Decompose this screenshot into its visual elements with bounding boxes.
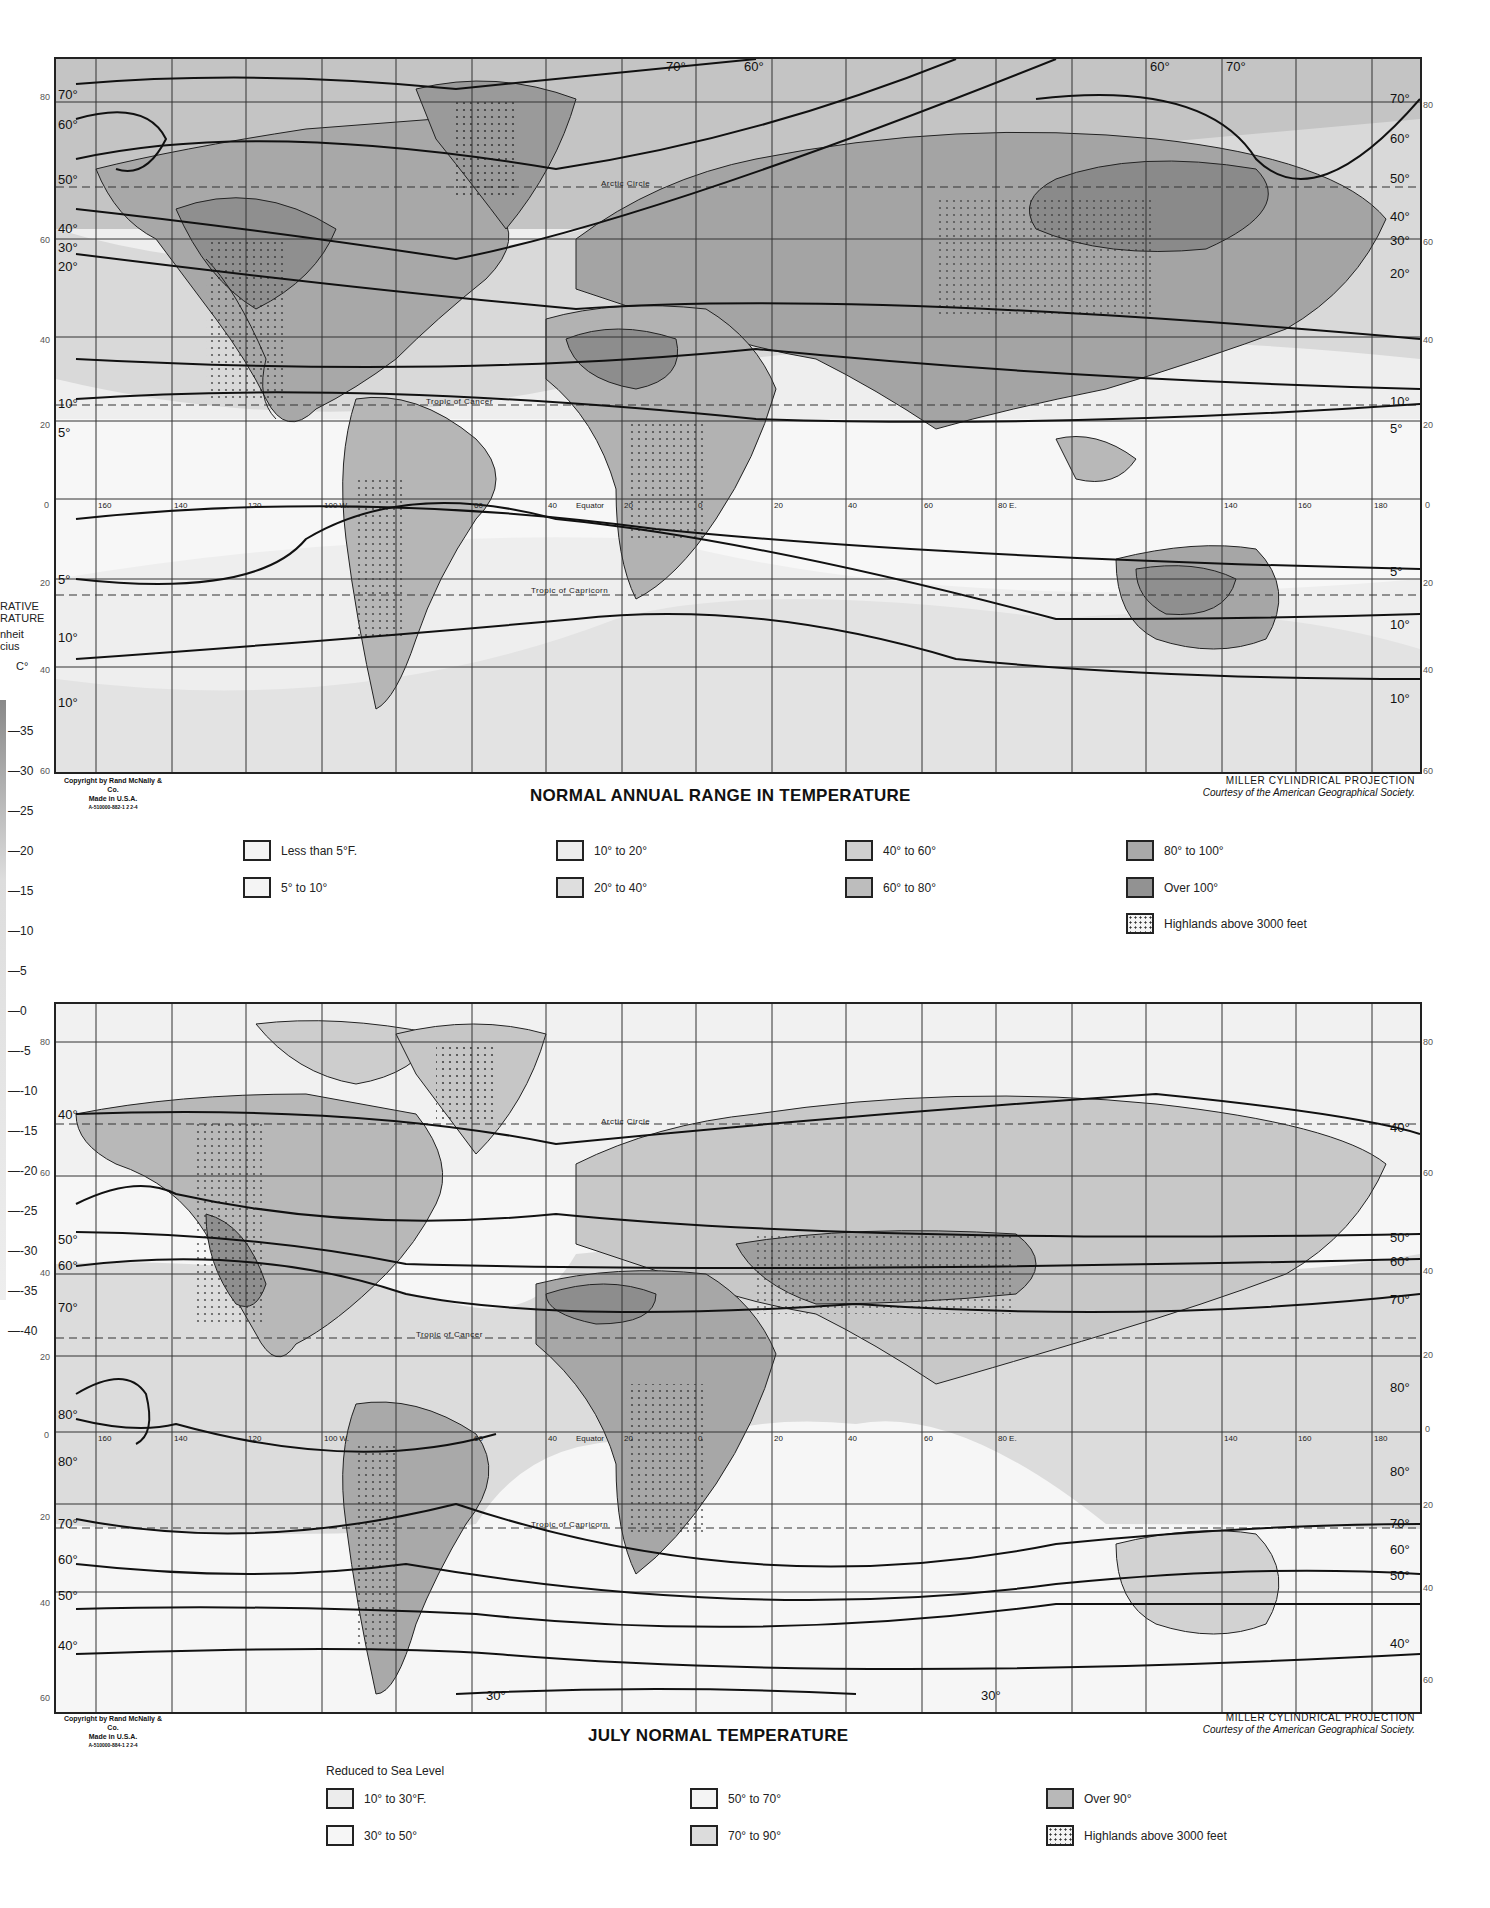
isotherm-label: 60° [1150,59,1170,74]
copyright-line: Made in U.S.A. [58,794,168,803]
legend-label: 20° to 40° [594,881,647,895]
lat-label: 80 [1423,1037,1433,1047]
legend-label: 40° to 60° [883,844,936,858]
lon-label: 140 [174,501,187,510]
isotherm-label: 60° [744,59,764,74]
scale-tick: —5 [8,964,27,978]
isotherm-label: 70° [58,1516,78,1531]
lon-label: 40 [848,1434,857,1443]
lat-label: 60 [40,1693,50,1703]
projection-name: MILLER CYLINDRICAL PROJECTION [1150,1712,1415,1724]
isotherm-label: 60° [58,117,78,132]
lon-label: 80 E. [998,1434,1017,1443]
lat-label: 80 [1423,100,1433,110]
lat-label: 0 [44,1430,49,1440]
lon-label: 60 [474,1434,483,1443]
legend-swatch [556,840,584,861]
isotherm-label: 80° [1390,1380,1410,1395]
lat-label: 40 [40,335,50,345]
legend-item: 70° to 90° [690,1825,781,1846]
isotherm-label: 70° [666,59,686,74]
july-map-frame: Arctic Circle Tropic of Cancer Tropic of… [54,1002,1422,1714]
copyright-line: Copyright by Rand McNally & Co. [58,776,168,794]
isotherm-label: 30° [58,240,78,255]
lon-label: 60 [924,501,933,510]
isotherm-label: 40° [1390,1636,1410,1651]
isotherm-label: 30° [1390,233,1410,248]
lon-label: 180 [1374,1434,1387,1443]
legend-swatch [243,877,271,898]
legend-label: Less than 5°F. [281,844,357,858]
isotherm-label: 10° [58,396,78,411]
isotherm-label: 5° [1390,421,1402,436]
lat-label: 20 [1423,1350,1433,1360]
scale-tick: —10 [8,924,33,938]
legend-label: 5° to 10° [281,881,327,895]
legend-item: Highlands above 3000 feet [1126,913,1307,934]
isotherm-label: 70° [58,87,78,102]
lon-label: 20 [624,1434,633,1443]
isotherm-label: 10° [1390,691,1410,706]
tropic-of-cancer-label: Tropic of Cancer [416,1330,483,1339]
isotherm-label: 5° [58,425,70,440]
projection-note: MILLER CYLINDRICAL PROJECTION Courtesy o… [1150,1712,1415,1736]
scale-tick: —30 [8,764,33,778]
legend-label: 10° to 30°F. [364,1792,426,1806]
scale-tick: —15 [8,884,33,898]
map-title: JULY NORMAL TEMPERATURE [588,1726,848,1746]
legend-swatch [326,1788,354,1809]
legend-label: 80° to 100° [1164,844,1224,858]
lon-label: 20 [774,1434,783,1443]
legend-label: Over 100° [1164,881,1218,895]
lat-label: 40 [40,1268,50,1278]
legend-label: Over 90° [1084,1792,1131,1806]
lon-label: 140 [1224,1434,1237,1443]
isotherm-label: 70° [58,1300,78,1315]
scale-tick: —20 [8,844,33,858]
legend-swatch [556,877,584,898]
isotherm-label: 60° [58,1552,78,1567]
isotherm-label: 80° [1390,1464,1410,1479]
isotherm-label: 20° [1390,266,1410,281]
isotherm-label: 60° [1390,1254,1410,1269]
equator-label: Equator [576,501,604,510]
legend-swatch [326,1825,354,1846]
legend-item: Less than 5°F. [243,840,357,861]
scale-tick: —-10 [8,1084,37,1098]
lon-label: 80 E. [998,501,1017,510]
lat-label: 20 [40,1512,50,1522]
isotherm-label: 10° [1390,617,1410,632]
isotherm-label: 50° [58,172,78,187]
arctic-circle-label: Arctic Circle [601,1117,650,1126]
isotherm-label: 70° [1390,1516,1410,1531]
isotherm-label: 30° [486,1688,506,1703]
copyright-notice: Copyright by Rand McNally & Co. Made in … [58,1714,168,1750]
highlands-dots-swatch [1046,1825,1074,1846]
legend-swatch [845,877,873,898]
legend-swatch [243,840,271,861]
lat-label: 60 [40,766,50,776]
lat-label: 40 [40,1598,50,1608]
equator-label: Equator [576,1434,604,1443]
legend-swatch [690,1825,718,1846]
lat-label: 40 [1423,1583,1433,1593]
scale-tick: —-25 [8,1204,37,1218]
lat-label: 60 [40,235,50,245]
isotherm-label: 80° [58,1454,78,1469]
isotherm-label: 20° [58,259,78,274]
lat-label: 20 [1423,420,1433,430]
lon-label: 0 [698,1434,702,1443]
copyright-line: A-510000-882-1 2 2-4 [58,803,168,812]
arctic-circle-label: Arctic Circle [601,179,650,188]
lat-label: 20 [40,420,50,430]
july-map-graphic [56,1004,1420,1712]
legend-item: 60° to 80° [845,877,936,898]
lat-label: 20 [40,578,50,588]
tropic-of-cancer-label: Tropic of Cancer [426,397,493,406]
scale-tick: —-5 [8,1044,31,1058]
legend-item: Highlands above 3000 feet [1046,1825,1227,1846]
legend-item: 40° to 60° [845,840,936,861]
lat-label: 40 [40,665,50,675]
isotherm-label: 40° [1390,1120,1410,1135]
isotherm-label: 80° [58,1407,78,1422]
